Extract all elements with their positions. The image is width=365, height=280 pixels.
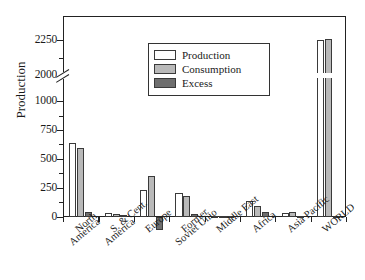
y-tick-label: 750	[3, 123, 57, 135]
legend-swatch-consumption	[154, 64, 176, 74]
legend-label-consumption: Consumption	[182, 63, 241, 75]
chart-root: Production 0250500750100020002250 NorthA…	[0, 0, 365, 280]
bar-production-6	[282, 213, 289, 216]
bar-consumption-3	[183, 196, 190, 217]
bar-consumption-2	[148, 176, 155, 216]
y-tick-label: 0	[3, 210, 57, 222]
bar-production-7	[317, 40, 324, 217]
legend-swatch-production	[154, 50, 176, 60]
x-tick-mark	[63, 217, 64, 222]
bar-consumption-0	[77, 148, 84, 216]
bar-production-0	[69, 143, 76, 216]
bar-consumption-7	[325, 39, 332, 217]
legend-item-production: Production	[154, 48, 264, 62]
legend-label-production: Production	[182, 49, 230, 61]
chart-legend: Production Consumption Excess	[148, 43, 270, 96]
y-tick-label: 500	[3, 152, 57, 164]
y-tick-label: 2000	[3, 68, 57, 80]
bar-production-1	[105, 213, 112, 217]
bar-production-3	[175, 193, 182, 217]
legend-item-consumption: Consumption	[154, 62, 264, 76]
axis-break-icon	[55, 68, 71, 83]
legend-label-excess: Excess	[182, 77, 213, 89]
y-tick-label: 250	[3, 181, 57, 193]
y-tick-label: 1000	[3, 94, 57, 106]
legend-swatch-excess	[154, 78, 176, 88]
y-tick-label: 2250	[3, 33, 57, 45]
bar-consumption-5	[254, 206, 261, 217]
legend-item-excess: Excess	[154, 76, 264, 90]
